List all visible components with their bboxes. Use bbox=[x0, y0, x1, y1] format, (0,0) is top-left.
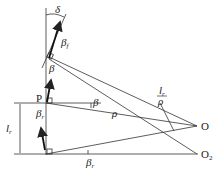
ray-rear-to-o bbox=[46, 126, 197, 154]
diagram-canvas: δ βf β P β ρ lr ρ O O2 lr βr βr bbox=[0, 0, 220, 169]
delta-label: δ bbox=[55, 3, 61, 15]
ray-front-to-o bbox=[49, 57, 197, 126]
beta-r-bottom-label: βr bbox=[85, 156, 94, 169]
beta-top-label: β bbox=[48, 62, 55, 74]
beta-f-label: βf bbox=[60, 36, 69, 50]
point-p-label: P bbox=[36, 92, 42, 104]
rear-velocity-arrow bbox=[41, 128, 45, 150]
beta-r-left-label: βr bbox=[35, 107, 44, 121]
point-o-label: O bbox=[201, 120, 209, 132]
rho-label: ρ bbox=[111, 107, 117, 119]
p-velocity-arrow bbox=[47, 80, 51, 102]
front-velocity-arrow bbox=[49, 22, 60, 58]
lr-label: lr bbox=[6, 122, 12, 136]
rho-line bbox=[46, 103, 197, 126]
point-o2-label: O2 bbox=[201, 148, 213, 162]
vehicle-geometry-diagram: δ βf β P β ρ lr ρ O O2 lr βr βr bbox=[0, 0, 220, 169]
lr-over-rho-denominator: ρ bbox=[157, 95, 163, 107]
beta-label: β bbox=[92, 96, 99, 108]
lr-rho-leader bbox=[160, 103, 174, 131]
